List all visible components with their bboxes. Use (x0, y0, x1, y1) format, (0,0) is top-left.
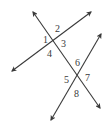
angle-label-3: 3 (61, 38, 66, 49)
angle-label-5: 5 (64, 74, 69, 85)
angle-label-2: 2 (55, 23, 60, 34)
angle-label-1: 1 (43, 34, 48, 45)
lower-line (51, 34, 101, 120)
angle-diagram: 1 2 3 4 6 5 7 8 (0, 0, 108, 131)
angle-labels-group: 1 2 3 4 6 5 7 8 (43, 23, 90, 99)
angle-label-7: 7 (85, 72, 90, 83)
angle-label-8: 8 (74, 88, 79, 99)
angle-label-4: 4 (47, 48, 52, 59)
angle-label-6: 6 (75, 57, 80, 68)
